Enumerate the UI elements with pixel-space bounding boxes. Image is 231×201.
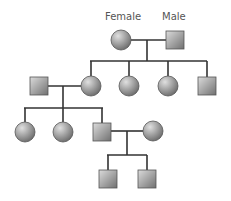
connector-lines: [24, 40, 207, 170]
female-symbol-g3-1: [15, 122, 35, 142]
male-symbol-g4-1: [99, 170, 117, 188]
male-symbol-g1: [166, 31, 184, 49]
male-symbol-g3-son: [93, 123, 111, 141]
female-symbol-g3-spouse: [143, 121, 163, 141]
female-symbol-g2-1: [81, 76, 101, 96]
pedigree-chart: [0, 0, 231, 201]
female-symbol-g2-2: [119, 76, 139, 96]
female-symbol-g3-2: [53, 122, 73, 142]
male-symbol-g2-son: [198, 77, 216, 95]
male-symbol-g2-spouse: [30, 77, 48, 95]
male-symbol-g4-2: [138, 170, 156, 188]
female-symbol-g2-3: [158, 76, 178, 96]
female-label: Female: [105, 11, 141, 22]
male-label: Male: [162, 11, 186, 22]
female-symbol-g1: [111, 30, 131, 50]
